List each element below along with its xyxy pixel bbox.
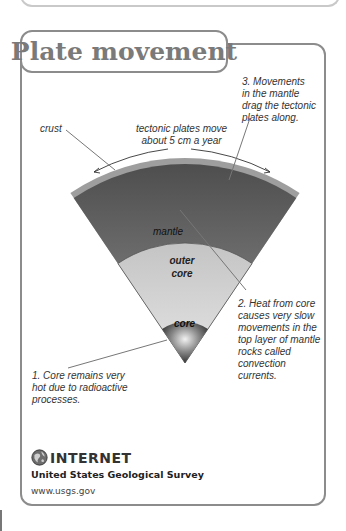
usgs-link[interactable]: www.usgs.gov — [31, 486, 204, 496]
crust-leader — [66, 130, 115, 170]
mantle-label: mantle — [153, 226, 183, 238]
step-3-text: 3. Movements in the mantle drag the tect… — [242, 76, 316, 124]
outer-core-label: outer core — [168, 255, 196, 280]
step-2-text: 2. Heat from core causes very slow movem… — [238, 298, 320, 382]
plates-move-label: tectonic plates move about 5 cm a year — [136, 123, 227, 147]
step1-leader — [68, 340, 167, 368]
core-label: core — [174, 318, 195, 330]
internet-heading: INTERNET — [50, 450, 132, 466]
organization-name: United States Geological Survey — [31, 469, 204, 480]
crust-label: crust — [40, 123, 62, 135]
next-panel-edge — [0, 510, 2, 531]
globe-icon — [31, 449, 48, 466]
internet-reference: INTERNET United States Geological Survey… — [31, 449, 204, 496]
step-1-text: 1. Core remains very hot due to radioact… — [32, 370, 128, 406]
